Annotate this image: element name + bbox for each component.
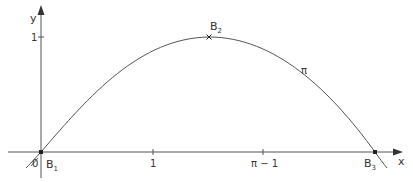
y-tick-label-1: 1 bbox=[31, 32, 37, 43]
x-axis bbox=[8, 149, 403, 156]
point-b2-label: B2 bbox=[210, 20, 222, 35]
curve-label: π bbox=[301, 65, 307, 76]
curve bbox=[26, 37, 387, 168]
point-b3-label: B3 bbox=[364, 157, 376, 172]
point-b1-marker bbox=[39, 150, 43, 154]
y-axis-arrow-icon bbox=[38, 5, 45, 15]
x-tick-label-pi-minus-1: π − 1 bbox=[251, 158, 278, 169]
y-axis-label: y bbox=[30, 12, 37, 25]
function-graph: y x 1 1 π − 1 0 B1 B2 B3 π bbox=[0, 0, 413, 182]
point-b3-marker bbox=[373, 150, 377, 154]
x-tick-label-1: 1 bbox=[150, 158, 156, 169]
point-b1-label: B1 bbox=[46, 158, 58, 173]
x-axis-label: x bbox=[398, 155, 405, 168]
